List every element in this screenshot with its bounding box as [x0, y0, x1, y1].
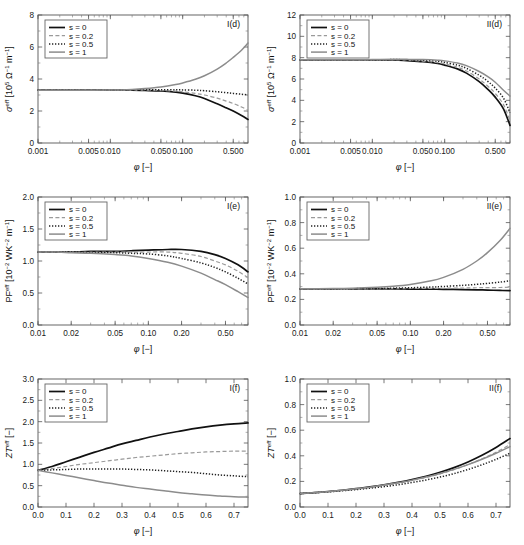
x-tick-label: 0.7: [490, 511, 502, 520]
x-tick-label: 0.50: [480, 329, 496, 338]
x-tick-label: 0.050: [151, 147, 172, 156]
y-tick-label: 0: [29, 139, 34, 148]
y-tick-label: 0: [291, 139, 296, 148]
y-tick-label: 0.8: [285, 401, 297, 410]
y-tick-label: 6: [291, 75, 296, 84]
y-tick-label: 0.6: [285, 244, 297, 253]
panel-label: I(d): [227, 19, 240, 29]
x-tick-label: 0.4: [406, 511, 418, 520]
y-tick-label: 3.0: [23, 375, 35, 384]
chart-if: 0.00.10.20.30.40.50.60.70.00.51.01.52.02…: [0, 364, 262, 545]
x-tick-label: 0.3: [116, 511, 128, 520]
x-tick-label: 0.5: [172, 511, 184, 520]
y-tick-label: 0.4: [285, 452, 297, 461]
x-tick-label: 0.4: [144, 511, 156, 520]
y-tick-label: 1.5: [23, 225, 35, 234]
x-tick-label: 0.0: [32, 511, 44, 520]
series-line-s1: [38, 252, 248, 297]
series-line-s0: [38, 423, 248, 470]
y-tick-label: 0.0: [285, 503, 297, 512]
series-line-s0: [300, 60, 510, 126]
y-tick-label: 0.2: [285, 295, 297, 304]
y-tick-label: 2.5: [23, 396, 35, 405]
x-tick-label: 0.50: [218, 329, 234, 338]
panel-iie: 0.010.020.050.100.200.500.00.20.40.60.81…: [262, 182, 524, 364]
y-tick-label: 4: [291, 96, 296, 105]
x-axis-label: φ [−]: [396, 344, 415, 354]
panel-label: I(e): [227, 201, 240, 211]
series-line-s02: [38, 90, 248, 110]
x-tick-label: 0.100: [434, 147, 455, 156]
chart-ie: 0.010.020.050.100.200.500.00.51.01.52.0P…: [0, 182, 262, 364]
x-tick-label: 0.100: [172, 147, 193, 156]
y-tick-label: 1.0: [23, 257, 35, 266]
panel-label: II(e): [487, 201, 502, 211]
x-tick-label: 0.6: [462, 511, 474, 520]
x-axis-label: φ [−]: [396, 526, 415, 536]
panel-ie: 0.010.020.050.100.200.500.00.51.01.52.0P…: [0, 182, 262, 364]
series-line-s1: [300, 59, 510, 96]
series-line-s1: [300, 447, 510, 494]
x-tick-label: 0.02: [63, 329, 79, 338]
x-tick-label: 0.5: [434, 511, 446, 520]
y-tick-label: 2: [29, 107, 34, 116]
x-tick-label: 0.20: [436, 329, 452, 338]
series-line-s05: [300, 453, 510, 493]
x-tick-label: 0.500: [223, 147, 244, 156]
legend-label: s = 1: [69, 48, 87, 57]
x-tick-label: 0.3: [378, 511, 390, 520]
panel-label: II(f): [489, 383, 502, 393]
y-axis-label: PFeff [10−2 WK−2 m−1]: [266, 219, 276, 302]
x-tick-label: 0.2: [88, 511, 100, 520]
y-tick-label: 8: [29, 11, 34, 20]
panel-iif: 0.00.10.20.30.40.50.60.70.00.20.40.60.81…: [262, 364, 524, 545]
series-line-s05: [300, 60, 510, 113]
chart-iif: 0.00.10.20.30.40.50.60.70.00.20.40.60.81…: [262, 364, 524, 545]
y-tick-label: 8: [291, 54, 296, 63]
x-tick-label: 0.7: [228, 511, 240, 520]
y-tick-label: 6: [29, 43, 34, 52]
panel-label: II(d): [487, 19, 502, 29]
y-tick-label: 10: [287, 32, 297, 41]
series-line-s1: [38, 470, 248, 497]
series-line-s02: [300, 60, 510, 121]
y-axis-label: ZTeff [−]: [266, 428, 276, 459]
y-axis-label: σeff [105 Ω−1 m−1]: [4, 46, 14, 112]
panel-if: 0.00.10.20.30.40.50.60.70.00.51.01.52.02…: [0, 364, 262, 545]
y-tick-label: 0.2: [285, 477, 297, 486]
y-tick-label: 0.4: [285, 270, 297, 279]
y-tick-label: 0.0: [23, 503, 35, 512]
x-tick-label: 0.02: [325, 329, 341, 338]
x-axis-label: φ [−]: [134, 344, 153, 354]
y-tick-label: 1.0: [285, 193, 297, 202]
y-tick-label: 1.5: [23, 439, 35, 448]
x-tick-label: 0.05: [369, 329, 385, 338]
legend-label: s = 1: [69, 230, 87, 239]
y-axis-label: ZTeff [−]: [4, 428, 14, 459]
x-tick-label: 0.1: [322, 511, 334, 520]
x-tick-label: 0.6: [200, 511, 212, 520]
chart-iie: 0.010.020.050.100.200.500.00.20.40.60.81…: [262, 182, 524, 364]
series-line-s0: [38, 90, 248, 119]
x-tick-label: 0.1: [60, 511, 72, 520]
x-tick-label: 0.10: [402, 329, 418, 338]
legend-label: s = 1: [331, 48, 349, 57]
x-axis-label: φ [−]: [396, 162, 415, 172]
panel-label: I(f): [230, 383, 241, 393]
y-axis-label: PFeff [10−2 WK−2 m−1]: [4, 219, 14, 302]
x-tick-label: 0.005: [340, 147, 361, 156]
x-tick-label: 0.500: [485, 147, 506, 156]
y-tick-label: 0.0: [285, 321, 297, 330]
y-tick-label: 2.0: [23, 418, 35, 427]
x-tick-label: 0.05: [107, 329, 123, 338]
x-tick-label: 0.20: [174, 329, 190, 338]
x-axis-label: φ [−]: [134, 526, 153, 536]
y-tick-label: 0.5: [23, 482, 35, 491]
panel-iid: 0.0010.0050.0100.0500.1000.500024681012σ…: [262, 0, 524, 182]
chart-iid: 0.0010.0050.0100.0500.1000.500024681012σ…: [262, 0, 524, 182]
y-tick-label: 4: [29, 75, 34, 84]
figure-grid: 0.0010.0050.0100.0500.1000.50002468σeff …: [0, 0, 524, 545]
legend-label: s = 1: [69, 412, 87, 421]
y-axis-label: σeff [105 Ω−1 m−1]: [266, 46, 276, 112]
y-tick-label: 12: [287, 11, 297, 20]
